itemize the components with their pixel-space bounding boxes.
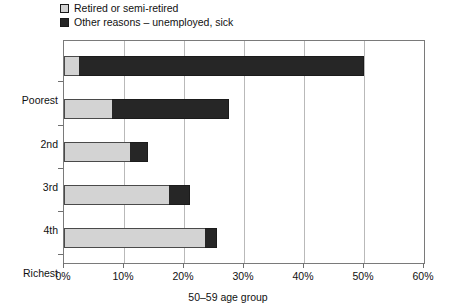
y-axis: Poorest 2nd 3rd 4th Richest (0, 40, 58, 262)
x-axis-tick (183, 263, 184, 268)
y-axis-label-poorest: Poorest (22, 94, 58, 106)
bar-segment-retired (64, 142, 130, 162)
legend-item-other: Other reasons – unemployed, sick (60, 16, 360, 29)
x-axis-tick (243, 263, 244, 268)
bar-segment-retired (64, 185, 169, 205)
x-axis-tick (123, 263, 124, 268)
x-axis-tick (423, 263, 424, 268)
plot-area (63, 40, 425, 264)
bar-segment-other (205, 228, 217, 248)
x-axis-tick (363, 263, 364, 268)
stacked-bar-chart: Retired or semi-retired Other reasons – … (0, 0, 456, 308)
bar-row-richest (64, 228, 217, 248)
x-axis-label-40: 40% (283, 270, 323, 282)
legend-swatch-retired-icon (60, 4, 69, 13)
bar-row-3rd (64, 142, 148, 162)
bar-segment-other (169, 185, 190, 205)
x-axis-label-0: 0% (43, 270, 83, 282)
bar-segment-retired (64, 56, 79, 76)
legend-label-retired: Retired or semi-retired (74, 3, 178, 14)
x-axis-label-60: 60% (403, 270, 443, 282)
bar-segment-retired (64, 99, 112, 119)
bar-row-4th (64, 185, 190, 205)
x-axis-label-50: 50% (343, 270, 383, 282)
legend-label-other: Other reasons – unemployed, sick (74, 17, 233, 28)
bar-segment-other (130, 142, 148, 162)
chart-legend: Retired or semi-retired Other reasons – … (60, 2, 360, 30)
x-axis-title: 50–59 age group (0, 291, 456, 303)
x-axis-label-10: 10% (103, 270, 143, 282)
bar-segment-retired (64, 228, 205, 248)
legend-item-retired: Retired or semi-retired (60, 2, 360, 15)
y-axis-label-3rd: 3rd (43, 181, 58, 193)
x-axis-label-30: 30% (223, 270, 263, 282)
bar-segment-other (112, 99, 229, 119)
x-axis-tick (63, 263, 64, 268)
bar-segment-other (79, 56, 364, 76)
x-axis-label-20: 20% (163, 270, 203, 282)
x-axis-tick (303, 263, 304, 268)
gridline-50 (364, 41, 365, 263)
y-axis-label-4th: 4th (43, 224, 58, 236)
legend-swatch-other-icon (60, 18, 69, 27)
bar-row-poorest (64, 56, 364, 76)
bar-row-2nd (64, 99, 229, 119)
y-axis-label-2nd: 2nd (40, 138, 58, 150)
